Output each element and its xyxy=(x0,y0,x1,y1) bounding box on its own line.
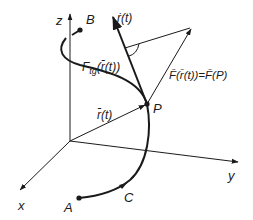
point-c-label: C xyxy=(124,190,134,205)
tangential-force-label: Ftg(r̄(t)) xyxy=(82,60,120,76)
svg-text:Ftg(r̄(t)): Ftg(r̄(t)) xyxy=(82,60,120,76)
y-axis xyxy=(70,141,238,162)
force-vector xyxy=(147,29,191,104)
projection-line xyxy=(125,28,190,48)
x-axis xyxy=(20,141,70,190)
force-label: F̄(r̄(t))=F̄(P) xyxy=(169,69,228,81)
x-axis-label: x xyxy=(17,198,25,213)
point-b-label: B xyxy=(86,12,95,27)
tangent-label: ṙ(t) xyxy=(117,11,132,25)
coordinate-axes xyxy=(20,14,238,190)
point-p xyxy=(144,101,149,106)
diagram-canvas: z x y B P A C ṙ(t) Ftg(r̄(t)) r̄(t) F̄(… xyxy=(0,0,253,220)
point-b xyxy=(77,27,82,32)
position-label: r̄(t) xyxy=(97,108,112,122)
point-a-label: A xyxy=(63,200,73,215)
z-axis-label: z xyxy=(55,13,63,28)
y-axis-label: y xyxy=(227,168,236,183)
point-a xyxy=(76,195,81,200)
point-p-label: P xyxy=(153,101,162,116)
